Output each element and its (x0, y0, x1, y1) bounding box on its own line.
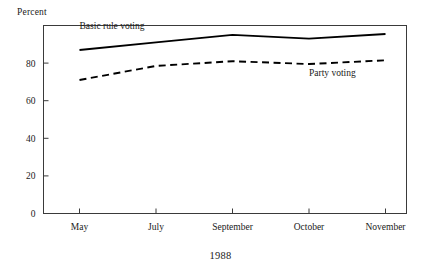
series-annotation-label: Party voting (309, 68, 356, 78)
series-line-basic-rule-voting (80, 34, 386, 50)
chart-figure: Percent 020406080 MayJulySeptemberOctobe… (0, 0, 441, 273)
x-tick-label: May (71, 222, 89, 232)
x-tick-label: September (212, 222, 253, 232)
x-tick-label: October (294, 222, 325, 232)
x-axis-ticks (80, 209, 386, 214)
y-tick-label: 40 (26, 134, 36, 144)
series-annotation-label: Basic rule voting (80, 21, 145, 31)
line-chart-plot: 020406080 MayJulySeptemberOctoberNovembe… (0, 0, 441, 273)
plot-frame (44, 26, 407, 214)
y-tick-label: 0 (31, 209, 36, 219)
y-axis-ticks (44, 63, 49, 213)
x-axis-title: 1988 (0, 250, 441, 261)
y-tick-label: 80 (26, 59, 36, 69)
x-tick-label: November (365, 222, 406, 232)
series-annotations-group: Basic rule votingParty voting (80, 21, 356, 78)
y-axis-tick-labels: 020406080 (26, 59, 36, 219)
y-tick-label: 20 (26, 171, 36, 181)
x-axis-tick-labels: MayJulySeptemberOctoberNovember (71, 222, 407, 232)
x-tick-label: July (148, 222, 164, 232)
y-tick-label: 60 (26, 96, 36, 106)
